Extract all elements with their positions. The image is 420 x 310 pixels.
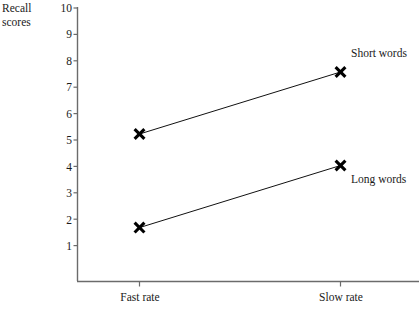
x-tick-marks [140,282,341,287]
series-label-long-words: Long words [351,174,406,186]
series-short-words-marker-slow [336,67,346,77]
series-short-words-line [140,72,341,134]
series-short-words-marker-fast [135,129,145,139]
series-long-words-marker-fast [135,223,145,233]
recall-scores-line-chart: Recall scores 10 9 8 7 6 5 4 3 2 1 [0,0,420,310]
x-tick-label-slow-rate: Slow rate [310,292,372,304]
x-tick-label-fast-rate: Fast rate [109,292,171,304]
series-long-words [135,161,346,233]
series-label-short-words: Short words [351,48,407,60]
series-long-words-marker-slow [336,161,346,171]
series-long-words-line [140,166,341,228]
series-short-words [135,67,346,139]
